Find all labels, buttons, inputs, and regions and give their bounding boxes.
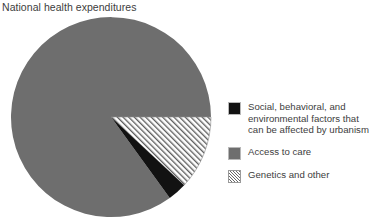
- pie-plot-area: [0, 12, 225, 222]
- pie-svg: [0, 12, 225, 222]
- legend-label-line-3: can be affected by urbanism: [248, 124, 369, 136]
- legend-label-access-to-care: Access to care: [248, 146, 311, 158]
- legend-label-line-1: Social, behavioral, and: [248, 101, 369, 113]
- legend-label-genetics-and-other: Genetics and other: [248, 169, 329, 181]
- legend-swatch-hatch-icon: [228, 170, 241, 183]
- pie-chart-figure: National health expenditures: [0, 0, 369, 222]
- legend-label-line-1: Genetics and other: [248, 169, 329, 181]
- legend-label-social-behavioral: Social, behavioral, and environmental fa…: [248, 101, 369, 136]
- legend-label-line-2: environmental factors that: [248, 113, 369, 125]
- legend-item-access-to-care[interactable]: Access to care: [228, 146, 311, 160]
- legend-label-line-1: Access to care: [248, 146, 311, 158]
- legend-item-social-behavioral[interactable]: Social, behavioral, and environmental fa…: [228, 101, 369, 136]
- legend-swatch-gray-icon: [228, 147, 241, 160]
- legend-item-genetics-and-other[interactable]: Genetics and other: [228, 169, 329, 183]
- legend-swatch-black-icon: [228, 102, 241, 115]
